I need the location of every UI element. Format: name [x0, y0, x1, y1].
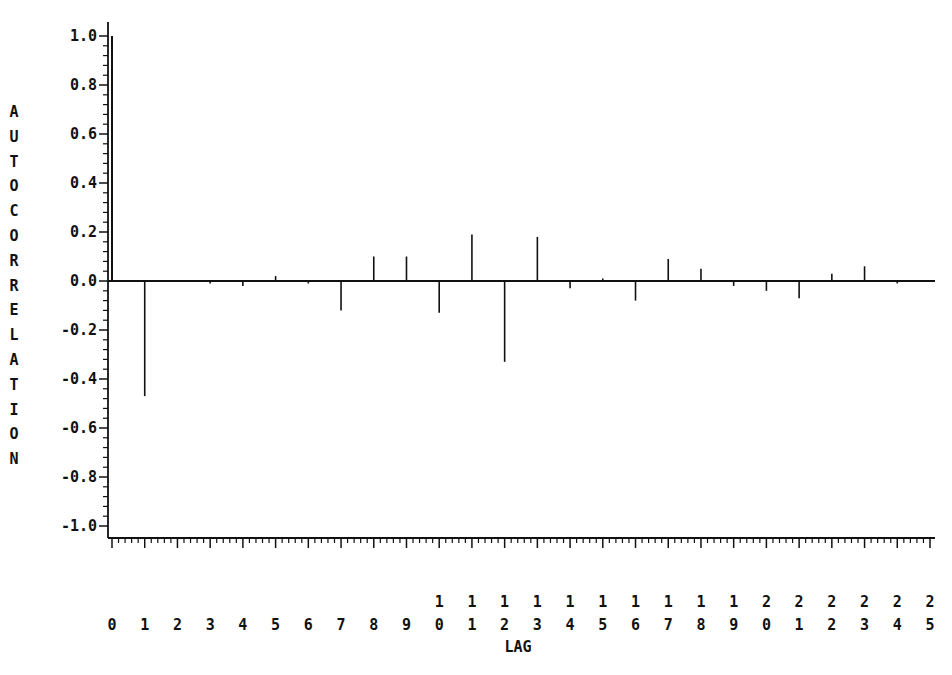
x-tick-label-ones: 8 [696, 616, 705, 634]
x-tick-label: 3 [206, 616, 215, 634]
x-tick-label-ones: 2 [827, 616, 836, 634]
x-tick-label-tens: 1 [435, 593, 444, 611]
x-tick-label-ones: 0 [762, 616, 771, 634]
x-tick-label-tens: 1 [631, 593, 640, 611]
x-tick-label: 1 [140, 616, 149, 634]
x-tick-label: 6 [304, 616, 313, 634]
y-axis-title-letter: E [9, 298, 18, 323]
x-tick-label: 2 [173, 616, 182, 634]
x-tick-label-tens: 1 [500, 593, 509, 611]
y-axis-title-letter: O [9, 174, 18, 199]
y-tick-label: -1.0 [61, 517, 97, 535]
y-tick-labels: 1.00.80.60.40.20.0-0.2-0.4-0.6-0.8-1.0 [61, 27, 97, 535]
x-axis [108, 538, 935, 548]
y-tick-label: 0.8 [70, 76, 97, 94]
x-tick-label-ones: 6 [631, 616, 640, 634]
y-axis-title-letter: A [9, 100, 18, 125]
y-axis-title-letter: C [9, 199, 18, 224]
y-tick-label: -0.8 [61, 468, 97, 486]
x-tick-label-tens: 2 [925, 593, 934, 611]
y-tick-label: 0.0 [70, 272, 97, 290]
x-tick-label-tens: 2 [795, 593, 804, 611]
x-tick-label: 8 [369, 616, 378, 634]
x-tick-label-ones: 5 [925, 616, 934, 634]
x-tick-labels: 0123456789101112131415161718192021222324… [107, 593, 934, 634]
x-tick-label-ones: 2 [500, 616, 509, 634]
x-tick-label-tens: 1 [664, 593, 673, 611]
x-tick-label-tens: 1 [533, 593, 542, 611]
x-tick-label-tens: 1 [566, 593, 575, 611]
x-tick-label-ones: 4 [566, 616, 575, 634]
x-tick-label-ones: 7 [664, 616, 673, 634]
y-axis-title-letter: N [9, 447, 18, 472]
x-tick-label-tens: 2 [893, 593, 902, 611]
x-tick-label-tens: 2 [762, 593, 771, 611]
x-axis-title: LAG [0, 638, 952, 656]
x-tick-label-tens: 1 [467, 593, 476, 611]
x-tick-label-ones: 3 [533, 616, 542, 634]
x-tick-label-ones: 1 [467, 616, 476, 634]
x-tick-label: 5 [271, 616, 280, 634]
x-tick-label-ones: 1 [795, 616, 804, 634]
x-tick-label-ones: 0 [435, 616, 444, 634]
y-axis [99, 22, 108, 538]
autocorrelation-bars [112, 36, 897, 396]
y-axis-title-letter: I [9, 398, 18, 423]
x-tick-label-ones: 5 [598, 616, 607, 634]
y-axis-title-letter: T [9, 150, 18, 175]
x-tick-label: 4 [238, 616, 247, 634]
y-tick-label: 1.0 [70, 27, 97, 45]
x-tick-label-tens: 1 [598, 593, 607, 611]
y-axis-title-letter: R [9, 249, 18, 274]
y-axis-title-letter: U [9, 125, 18, 150]
y-tick-label: -0.2 [61, 321, 97, 339]
y-axis-title-letter: A [9, 348, 18, 373]
autocorrelation-chart: 1.00.80.60.40.20.0-0.2-0.4-0.6-0.8-1.0 0… [0, 0, 952, 675]
y-axis-title-letter: T [9, 373, 18, 398]
y-axis-title: AUTOCORRELATION [6, 100, 22, 472]
y-axis-title-letter: O [9, 422, 18, 447]
x-tick-label-ones: 9 [729, 616, 738, 634]
x-tick-label-tens: 1 [696, 593, 705, 611]
y-tick-label: -0.6 [61, 419, 97, 437]
x-tick-label-tens: 2 [827, 593, 836, 611]
x-tick-label: 7 [337, 616, 346, 634]
y-tick-label: 0.6 [70, 125, 97, 143]
x-tick-label: 0 [107, 616, 116, 634]
y-tick-label: -0.4 [61, 370, 97, 388]
y-axis-title-letter: L [9, 323, 18, 348]
x-tick-label-ones: 3 [860, 616, 869, 634]
y-tick-label: 0.2 [70, 223, 97, 241]
y-axis-title-letter: O [9, 224, 18, 249]
x-tick-label-ones: 4 [893, 616, 902, 634]
x-tick-label: 9 [402, 616, 411, 634]
x-tick-label-tens: 1 [729, 593, 738, 611]
y-axis-title-letter: R [9, 274, 18, 299]
y-tick-label: 0.4 [70, 174, 97, 192]
x-tick-label-tens: 2 [860, 593, 869, 611]
